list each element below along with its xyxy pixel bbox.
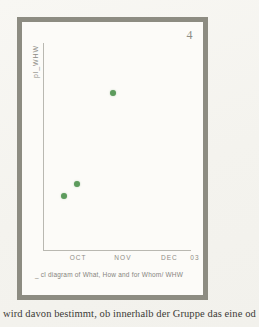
figure-inner: 4 pl_WHW OCTNOVDEC03 _ cl diagram of Wha…	[22, 22, 203, 295]
body-paragraph: wird davon bestimmt, ob innerhalb der Gr…	[3, 308, 259, 319]
scatter-point	[74, 181, 80, 187]
y-axis-label: pl_WHW	[32, 35, 39, 89]
scatter-plot: pl_WHW OCTNOVDEC03	[22, 22, 203, 295]
x-axis-tick-label: OCT	[70, 254, 87, 261]
figure-frame: 4 pl_WHW OCTNOVDEC03 _ cl diagram of Wha…	[17, 17, 208, 300]
scatter-point	[61, 193, 67, 199]
x-axis-ticks: OCTNOVDEC03	[43, 254, 203, 266]
x-axis-tick-label: 03	[190, 254, 199, 261]
x-axis-tick-label: DEC	[161, 254, 178, 261]
figure-caption: _ cl diagram of What, How and for Whom/ …	[35, 269, 187, 280]
scatter-point	[110, 90, 116, 96]
x-axis-tick-label: NOV	[114, 254, 131, 261]
y-axis-line	[43, 43, 44, 251]
x-axis-line	[43, 250, 191, 251]
